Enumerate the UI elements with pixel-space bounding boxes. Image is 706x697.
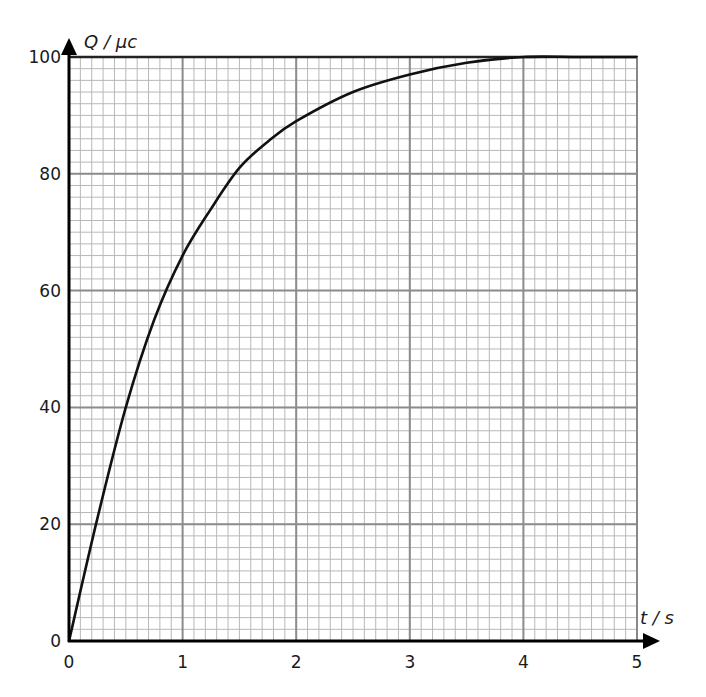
y-tick-label: 80: [39, 164, 61, 184]
y-axis-arrow-icon: [61, 38, 77, 55]
x-tick-label: 3: [404, 652, 415, 672]
x-tick-label: 4: [518, 652, 529, 672]
x-tick-label: 0: [64, 652, 75, 672]
y-axis-label: Q / μc: [84, 31, 137, 52]
x-tick-label: 2: [291, 652, 302, 672]
y-tick-label: 100: [29, 47, 61, 67]
grid-minor: [69, 57, 637, 641]
y-tick-labels: 020406080100: [29, 47, 61, 651]
y-tick-label: 60: [39, 281, 61, 301]
charge-time-chart: 012345 020406080100 Q / μc t / s: [0, 0, 706, 697]
x-axis-arrow-icon: [643, 633, 660, 649]
x-tick-label: 5: [632, 652, 643, 672]
x-axis-label: t / s: [640, 607, 674, 628]
axes: [61, 38, 660, 649]
y-tick-label: 40: [39, 397, 61, 417]
y-tick-label: 0: [50, 631, 61, 651]
x-tick-labels: 012345: [64, 652, 643, 672]
x-tick-label: 1: [177, 652, 188, 672]
y-tick-label: 20: [39, 514, 61, 534]
